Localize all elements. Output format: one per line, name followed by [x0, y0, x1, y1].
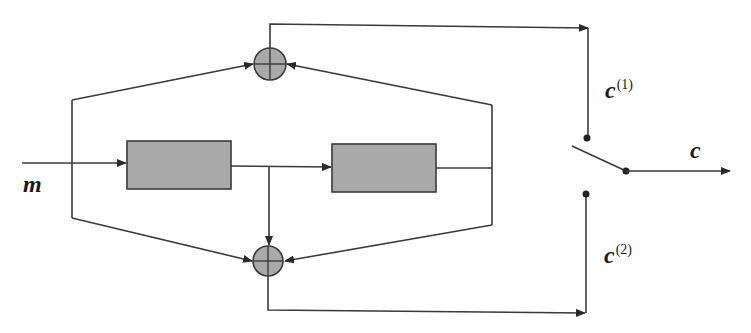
c1-label: c(1) — [605, 78, 633, 102]
input-label-m: m — [23, 172, 42, 196]
encoder-diagram — [0, 0, 751, 333]
c2-label-superscript: (2) — [616, 242, 632, 257]
c1-label-base: c — [605, 77, 616, 103]
block1-to-block2-wire — [231, 166, 331, 167]
output-switch — [572, 135, 630, 198]
right-to-bottom-adder-wire — [285, 225, 492, 261]
switch-contact-2 — [583, 191, 590, 198]
block-1 — [127, 141, 231, 189]
adder-bottom — [253, 246, 283, 276]
c2-label: c(2) — [604, 243, 632, 267]
c1-label-superscript: (1) — [617, 77, 633, 92]
block-2 — [332, 144, 436, 192]
left-to-top-adder-wire — [72, 64, 253, 100]
right-to-top-adder-wire — [287, 64, 492, 105]
adder-top — [254, 48, 286, 80]
top-adder-output-wire — [270, 24, 588, 48]
c2-label-base: c — [604, 242, 615, 268]
bottom-adder-output-wire — [268, 276, 585, 313]
switch-contact-1 — [584, 135, 591, 142]
switch-arm — [572, 146, 626, 171]
output-label-c: c — [690, 138, 701, 162]
left-to-bottom-adder-wire — [72, 218, 252, 261]
